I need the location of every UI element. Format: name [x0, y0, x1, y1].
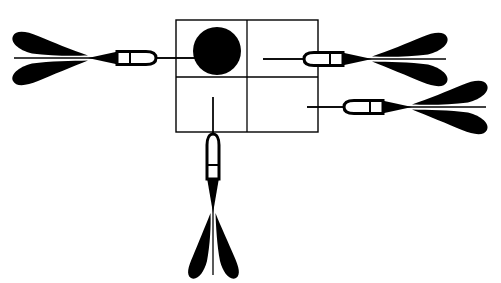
dart-right-lower-barrel	[344, 101, 383, 114]
dart-target-diagram	[0, 0, 501, 283]
filled-circle	[193, 27, 241, 75]
dart-right-upper-barrel	[304, 53, 343, 66]
dart-left-barrel	[117, 52, 156, 65]
figure-root	[0, 0, 501, 283]
dart-bottom-barrel	[207, 134, 219, 179]
